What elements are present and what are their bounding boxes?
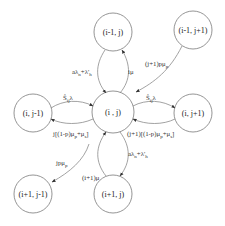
node-down: (i+1, j)	[94, 175, 132, 213]
arrow-icon	[51, 119, 93, 124]
node-down-left-label: (i+1, j-1)	[19, 190, 48, 199]
edge-down-to-center: (i+1)μ	[82, 132, 106, 182]
edge-center-to-left: j[(1-p)μp+μs]	[51, 119, 93, 139]
arrow-icon	[98, 132, 106, 176]
arrow-icon	[51, 101, 93, 108]
edge-right-to-center-label: (j+1)[(1-p)μp+μs]	[127, 130, 174, 139]
edge-center-to-up-label: iμ	[128, 68, 134, 75]
state-transition-diagram: (i , j) (i-1, j) (i-1, j+1) (i, j-1) (i,…	[0, 0, 225, 226]
arrow-icon	[133, 119, 175, 124]
node-center-label: (i , j)	[105, 108, 121, 117]
arrow-icon	[98, 50, 106, 93]
edge-up-to-center: aλn+λ'h	[72, 50, 106, 93]
node-up-right-label: (i-1, j+1)	[179, 26, 208, 35]
arrow-icon	[120, 132, 128, 176]
edge-center-to-down-left-label: jpμp	[55, 159, 68, 168]
edge-down-to-center-label: (i+1)μ	[82, 174, 100, 182]
node-right: (i, j+1)	[174, 94, 212, 132]
edge-up-right-to-center: (j+1)pμp	[136, 46, 182, 92]
node-down-label: (i+1, j)	[102, 190, 125, 199]
node-up-label: (i-1, j)	[103, 28, 124, 37]
node-up: (i-1, j)	[94, 13, 132, 51]
edge-center-to-up: iμ	[120, 50, 134, 93]
node-left-label: (i, j-1)	[23, 109, 44, 118]
arrow-icon	[133, 101, 175, 108]
node-left: (i, j-1)	[14, 94, 52, 132]
edge-center-to-down-label: aλn+λ'h	[128, 150, 148, 159]
arrow-icon	[136, 46, 182, 92]
edge-up-to-center-label: aλn+λ'h	[72, 68, 92, 77]
node-up-right: (i-1, j+1)	[174, 11, 212, 49]
edge-left-to-center: Ŝijλ	[51, 94, 93, 108]
edge-center-to-left-label: j[(1-p)μp+μs]	[52, 130, 89, 139]
edge-up-right-to-center-label: (j+1)pμp	[145, 60, 169, 69]
node-down-left: (i+1, j-1)	[14, 175, 52, 213]
node-center: (i , j)	[92, 91, 134, 133]
edge-center-to-right: Ŝijλ	[133, 94, 175, 108]
node-right-label: (i, j+1)	[182, 109, 205, 118]
edge-center-to-down: aλn+λ'h	[120, 132, 148, 176]
edge-right-to-center: (j+1)[(1-p)μp+μs]	[127, 119, 175, 139]
